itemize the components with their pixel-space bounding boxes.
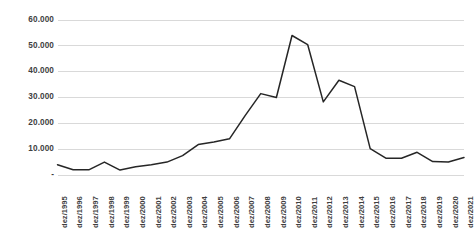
x-axis-tick-label: dez/2000 [139,196,147,228]
x-axis-tick-label: dez/2014 [358,196,366,228]
x-axis-tick-label: dez/1999 [123,196,131,228]
x-axis-tick-label: dez/2002 [170,196,178,228]
x-axis-tick-label: dez/2019 [436,196,444,228]
x-axis-tick-label: dez/1997 [92,196,100,228]
x-axis-tick-label: dez/2015 [373,196,381,228]
x-axis-tick-label: dez/2011 [311,197,319,228]
x-axis-tick-label: dez/1998 [108,196,116,228]
x-axis-tick-label: dez/1995 [61,196,69,228]
x-axis-tick-labels: dez/1995dez/1996dez/1997dez/1998dez/1999… [0,0,475,233]
x-axis-tick-label: dez/2018 [420,196,428,228]
x-axis-tick-label: dez/2017 [405,196,413,228]
x-axis-tick-label: dez/2021 [467,196,475,228]
x-axis-tick-label: dez/2005 [217,196,225,228]
x-axis-tick-label: dez/2010 [295,196,303,228]
x-axis-tick-label: dez/2006 [233,196,241,228]
x-axis-tick-label: dez/2016 [389,196,397,228]
x-axis-tick-label: dez/1996 [76,196,84,228]
x-axis-tick-label: dez/2008 [264,196,272,228]
line-chart: -10.00020.00030.00040.00050.00060.000 de… [0,0,475,233]
x-axis-tick-label: dez/2007 [248,196,256,228]
x-axis-tick-label: dez/2004 [201,196,209,228]
x-axis-tick-label: dez/2003 [186,196,194,228]
x-axis-tick-label: dez/2009 [280,196,288,228]
x-axis-tick-label: dez/2020 [452,196,460,228]
x-axis-tick-label: dez/2013 [342,196,350,228]
x-axis-tick-label: dez/2012 [326,196,334,228]
x-axis-tick-label: dez/2001 [155,196,163,228]
